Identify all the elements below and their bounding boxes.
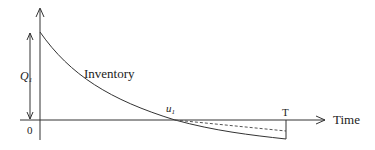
time-axis-label: Time: [333, 112, 360, 127]
inventory-diagram: Inventory Time 0 Q1 u1 T: [0, 0, 375, 150]
cycle-end-label: T: [282, 106, 289, 118]
inventory-label: Inventory: [84, 66, 135, 81]
inventory-curve: [40, 32, 286, 139]
time-axis: [20, 116, 325, 124]
zero-crossing-label: u1: [166, 102, 175, 116]
dashed-linear-line: [175, 120, 286, 131]
origin-label: 0: [27, 124, 33, 136]
